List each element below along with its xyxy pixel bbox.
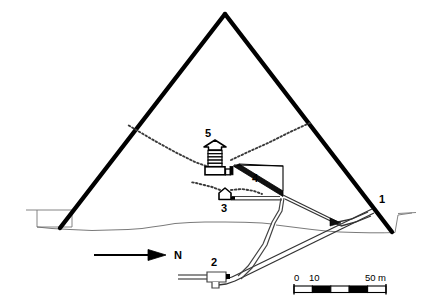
callout-label-3: 3 <box>221 202 227 214</box>
scale-segment-40-50 <box>368 286 386 293</box>
kings-burial-chamber <box>205 167 225 175</box>
callout-label-1: 1 <box>379 193 385 205</box>
subterranean-chamber-block <box>226 274 230 279</box>
subterranean-pit <box>212 282 219 288</box>
scale-tick-label-0: 0 <box>294 272 299 283</box>
scale-segment-10-20 <box>312 286 330 293</box>
scale-segment-20-30 <box>331 286 349 293</box>
north-arrow-label: N <box>174 249 182 261</box>
portcullis-block <box>230 167 233 175</box>
queens-passage-step <box>231 197 235 200</box>
callout-label-5: 5 <box>205 127 211 139</box>
callout-label-4: 4 <box>252 172 259 184</box>
callout-label-2: 2 <box>211 256 217 268</box>
pyramid-cross-section-figure: 1 2 3 4 5 N 0 10 50 m <box>0 0 431 308</box>
scale-tick-label-50: 50 m <box>365 272 386 283</box>
scale-segment-0-10 <box>294 286 312 293</box>
scale-tick-label-10: 10 <box>309 272 320 283</box>
subterranean-chamber-outline <box>207 272 226 282</box>
scale-segment-30-40 <box>349 286 367 293</box>
